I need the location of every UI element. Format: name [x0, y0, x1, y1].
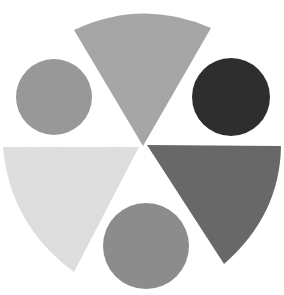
- top-wedge: [74, 13, 211, 146]
- right-circle: [192, 58, 270, 136]
- bottom-circle: [103, 203, 189, 289]
- artwork-canvas: [0, 0, 284, 295]
- left-circle: [16, 59, 92, 135]
- composition: [0, 0, 284, 295]
